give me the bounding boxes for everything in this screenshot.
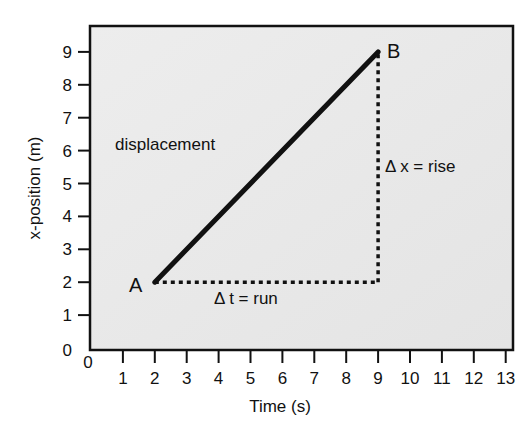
x-tick-label: 5	[246, 369, 255, 388]
x-tick-label: 2	[150, 369, 159, 388]
x-tick-label: 4	[214, 369, 223, 388]
y-tick-label: 1	[63, 306, 72, 325]
y-tick-label: 7	[63, 109, 72, 128]
y-tick-label: 6	[63, 142, 72, 161]
x-tick-label: 7	[310, 369, 319, 388]
x-tick-label: 10	[401, 369, 420, 388]
y-tick-label: 3	[63, 240, 72, 259]
y-axis-ticks: 0123456789	[63, 43, 90, 360]
x-tick-label: 3	[182, 369, 191, 388]
y-tick-label: 4	[63, 207, 72, 226]
x-tick-label: 1	[118, 369, 127, 388]
plot-area	[90, 26, 513, 350]
x-tick-label: 12	[464, 369, 483, 388]
x-tick-label: 9	[373, 369, 382, 388]
run-label: Δ t = run	[214, 289, 278, 308]
chart: 0123456789 012345678910111213 Time (s) x…	[0, 0, 530, 438]
y-tick-label: 5	[63, 175, 72, 194]
x-axis-ticks: 012345678910111213	[83, 351, 515, 388]
x-tick-label: 13	[496, 369, 515, 388]
rise-label: Δ x = rise	[385, 157, 455, 176]
x-tick-label: 8	[341, 369, 350, 388]
point-b-label: B	[387, 40, 400, 62]
y-tick-label: 0	[63, 341, 72, 360]
x-tick-label: 6	[278, 369, 287, 388]
y-tick-label: 2	[63, 273, 72, 292]
x-tick-label: 0	[83, 353, 92, 372]
point-a-label: A	[129, 274, 143, 296]
x-axis-title: Time (s)	[249, 397, 311, 416]
displacement-label: displacement	[115, 135, 215, 154]
y-tick-label: 8	[63, 76, 72, 95]
x-tick-label: 11	[433, 369, 451, 388]
y-tick-label: 9	[63, 43, 72, 62]
y-axis-title: x-position (m)	[25, 137, 44, 240]
